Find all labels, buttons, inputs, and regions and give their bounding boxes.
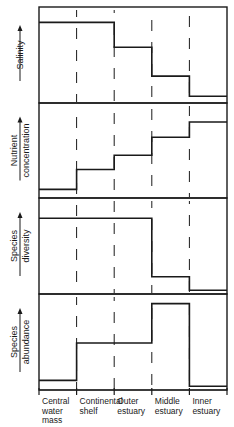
- x-tick-label: Innerestuary: [192, 396, 221, 416]
- ylabel-nutrient-concentration: Nutrientconcentration: [9, 117, 31, 181]
- x-tick-label-line: shelf: [80, 406, 99, 416]
- arrowhead-icon: [18, 25, 23, 31]
- panel-frame: [39, 198, 227, 294]
- step-line-salinity: [39, 22, 227, 96]
- x-tick-label: Middleestuary: [155, 396, 184, 416]
- x-tick-label-line: mass: [42, 415, 62, 425]
- panel-frame: [39, 294, 227, 390]
- arrowhead-icon: [18, 117, 23, 123]
- ylabel-species-diversity: Speciesdiversity: [9, 212, 31, 276]
- ylabel-text: abundance: [21, 320, 31, 365]
- x-tick-label-line: Inner: [192, 396, 212, 406]
- ylabel-salinity: Salinity: [15, 25, 25, 81]
- step-line-species-diversity: [39, 218, 227, 290]
- x-tick-label-line: estuary: [192, 406, 221, 416]
- x-tick-label-line: Central: [42, 396, 70, 406]
- panel-species-abundance: Speciesabundance: [9, 294, 227, 390]
- ylabel-text: concentration: [21, 123, 31, 177]
- ylabel-species-abundance: Speciesabundance: [9, 308, 31, 372]
- panel-frame: [39, 103, 227, 198]
- x-tick-label: Centralwatermass: [41, 396, 70, 425]
- ylabel-text: Species: [9, 325, 19, 358]
- panel-species-diversity: Speciesdiversity: [9, 198, 227, 294]
- x-tick-label-line: estuary: [117, 406, 146, 416]
- x-tick-label-line: Middle: [155, 396, 180, 406]
- arrowhead-icon: [18, 212, 23, 218]
- panel-nutrient-concentration: Nutrientconcentration: [9, 103, 227, 198]
- ylabel-text: Species: [9, 229, 19, 262]
- panel-salinity: Salinity: [15, 7, 227, 103]
- panel-frame: [39, 7, 227, 103]
- x-tick-label-line: Outer: [117, 396, 138, 406]
- ylabel-text: diversity: [21, 229, 31, 263]
- x-tick-label-line: water: [41, 406, 63, 416]
- arrowhead-icon: [18, 308, 23, 314]
- estuary-gradient-diagram: SalinityNutrientconcentrationSpeciesdive…: [0, 0, 234, 427]
- step-line-species-abundance: [39, 304, 227, 387]
- x-tick-label: Outerestuary: [117, 396, 146, 416]
- ylabel-text: Nutrient: [9, 134, 19, 166]
- x-tick-label-line: estuary: [155, 406, 184, 416]
